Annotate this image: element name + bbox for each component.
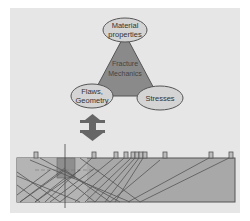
top-node-label-1: Material xyxy=(112,21,139,30)
fracture-mechanics-diagram: Fracture Mechanics Material properties F… xyxy=(0,0,250,221)
right-node-label: Stresses xyxy=(145,94,174,103)
sensors xyxy=(34,152,233,158)
center-label-2: Mechanics xyxy=(108,70,142,77)
left-node-label-2: Geometry xyxy=(76,96,109,105)
top-node-label-2: properties xyxy=(108,30,142,39)
center-label-1: Fracture xyxy=(112,60,138,67)
double-arrow-icon xyxy=(80,114,105,141)
left-node-label-1: Flaws, xyxy=(81,87,103,96)
